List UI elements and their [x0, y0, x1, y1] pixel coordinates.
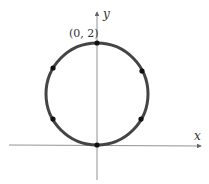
top-point-label: (0, 2) — [69, 27, 99, 40]
circle-diagram: y x (0, 2) — [0, 0, 209, 184]
point-bottom — [94, 142, 99, 147]
x-axis-label: x — [194, 129, 201, 143]
point-upper-left — [50, 65, 55, 70]
point-top — [94, 40, 99, 45]
point-lower-right — [138, 116, 143, 121]
point-upper-right — [139, 68, 144, 73]
point-lower-left — [50, 116, 55, 121]
y-axis-label: y — [102, 7, 110, 21]
